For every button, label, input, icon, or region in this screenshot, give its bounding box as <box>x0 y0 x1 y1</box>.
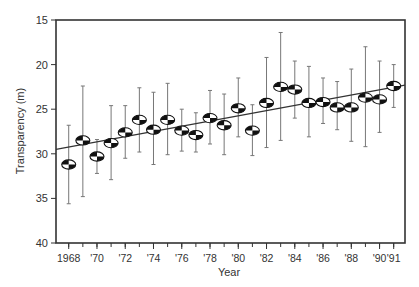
secchi-disk-icon <box>146 125 160 134</box>
secchi-disk-icon <box>358 93 372 102</box>
y-tick-label: 25 <box>36 103 48 115</box>
secchi-disk-icon <box>217 121 231 130</box>
x-tick-label: '80 <box>231 252 245 264</box>
secchi-disk-icon <box>161 115 175 124</box>
x-axis-label: Year <box>218 266 241 278</box>
secchi-disk-icon <box>245 126 259 135</box>
y-tick-label: 15 <box>36 14 48 26</box>
y-tick-label: 40 <box>36 237 48 249</box>
x-tick-label: '90 <box>373 252 387 264</box>
y-tick: 40 <box>36 237 56 249</box>
x-tick-label: '84 <box>288 252 302 264</box>
secchi-disk-icon <box>104 138 118 147</box>
x-tick-label: '88 <box>344 252 358 264</box>
y-axis: 152025303540 <box>36 14 56 249</box>
secchi-disk-icon <box>203 114 217 123</box>
secchi-disk-icon <box>118 128 132 137</box>
secchi-disk-icon <box>302 98 316 107</box>
y-tick-label: 35 <box>36 192 48 204</box>
y-tick: 25 <box>36 103 56 115</box>
y-tick-label: 30 <box>36 148 48 160</box>
y-tick: 30 <box>36 148 56 160</box>
x-tick-label: '74 <box>147 252 161 264</box>
transparency-scatter-plot: 152025303540 1968'70'72'74'76'78'80'82'8… <box>0 0 419 287</box>
x-tick-label: '70 <box>90 252 104 264</box>
secchi-disk-icon <box>76 136 90 145</box>
secchi-disk-icon <box>175 126 189 135</box>
x-axis: 1968'70'72'74'76'78'80'82'84'86'88'90'91 <box>57 243 401 264</box>
secchi-disk-icon <box>316 97 330 106</box>
secchi-disk-icon <box>62 160 76 169</box>
x-tick-label: '86 <box>316 252 330 264</box>
x-tick-label: '78 <box>203 252 217 264</box>
secchi-disk-icon <box>90 152 104 161</box>
chart-container: 152025303540 1968'70'72'74'76'78'80'82'8… <box>0 0 419 287</box>
secchi-disk-icon <box>344 103 358 112</box>
y-tick: 15 <box>36 14 56 26</box>
x-tick-label: '82 <box>260 252 274 264</box>
secchi-disk-icon <box>260 98 274 107</box>
y-axis-label: Transparency (m) <box>14 88 26 174</box>
plot-frame <box>56 20 405 243</box>
secchi-disk-icon <box>387 81 401 90</box>
x-tick-label: '76 <box>175 252 189 264</box>
secchi-disk-icon <box>330 103 344 112</box>
secchi-disk-icon <box>274 82 288 91</box>
secchi-disk-icon <box>132 115 146 124</box>
y-tick: 20 <box>36 59 56 71</box>
data-markers <box>62 81 401 169</box>
x-tick-label: '91 <box>387 252 401 264</box>
x-tick-label: 1968 <box>57 252 81 264</box>
secchi-disk-icon <box>231 104 245 113</box>
y-tick-label: 20 <box>36 59 48 71</box>
secchi-disk-icon <box>373 95 387 104</box>
secchi-disk-icon <box>189 130 203 139</box>
x-tick-label: '72 <box>118 252 132 264</box>
error-bars <box>67 32 396 203</box>
y-tick: 35 <box>36 192 56 204</box>
secchi-disk-icon <box>288 85 302 94</box>
